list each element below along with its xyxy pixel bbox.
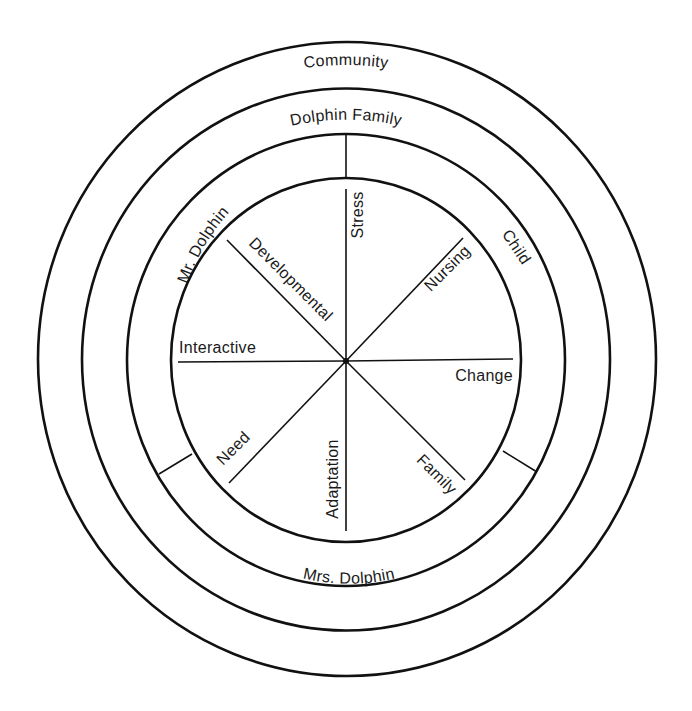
spoke-family (346, 361, 465, 480)
family-label: Family (414, 451, 461, 498)
nursing-label: Nursing (421, 242, 473, 294)
developmental-label: Developmental (246, 234, 336, 324)
need-label: Need (213, 428, 253, 468)
adaptation-label: Adaptation (324, 439, 341, 519)
interactive-label: Interactive (179, 339, 256, 356)
mrs-dolphin-label: Mrs. Dolphin (302, 565, 396, 587)
spoke-interactive (178, 361, 346, 362)
dolphin-family-label: Dolphin Family (289, 106, 404, 129)
divider-left (159, 454, 192, 474)
nursing-concepts-diagram: Community Dolphin Family Mr. Dolphin Mrs… (0, 0, 692, 711)
community-label: Community (303, 51, 390, 71)
stress-label: Stress (349, 191, 366, 238)
spoke-change (346, 359, 513, 361)
change-label: Change (455, 367, 513, 384)
mr-dolphin-label: Mr. Dolphin (174, 203, 232, 285)
child-label: Child (499, 226, 534, 267)
center-hub (343, 358, 349, 364)
divider-right (503, 451, 537, 472)
